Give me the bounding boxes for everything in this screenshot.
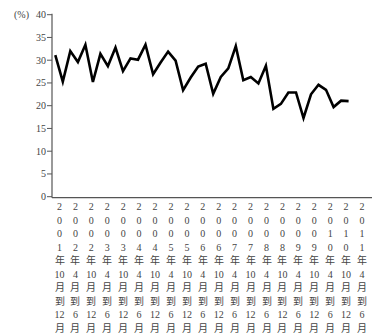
y-tick-label: 10: [36, 146, 46, 157]
data-line: [55, 45, 348, 118]
y-tick-label: 5: [41, 168, 46, 179]
x-tick-label: 2010年10月到12月: [339, 200, 353, 335]
x-tick-label: 2011年4月到6月: [355, 200, 369, 335]
y-tick-label: 30: [36, 55, 46, 66]
x-tick-label: 2001年10月到12月: [53, 200, 67, 335]
x-tick-label: 2007年10月到12月: [244, 200, 258, 335]
y-axis: 0510152025303540(%): [14, 9, 52, 202]
x-tick-label: 2006年10月到12月: [212, 200, 226, 335]
x-tick-label: 2004年10月到12月: [148, 200, 162, 335]
x-tick-label: 2003年10月到12月: [116, 200, 130, 335]
x-tick-label: 2003年4月到6月: [100, 200, 114, 335]
x-tick-label: 2008年4月到6月: [260, 200, 274, 335]
x-tick-label: 2009年4月到6月: [291, 200, 305, 335]
x-tick-label: 2008年10月到12月: [275, 200, 289, 335]
x-tick-label: 2006年4月到6月: [196, 200, 210, 335]
x-tick-label: 2005年4月到6月: [164, 200, 178, 335]
y-tick-label: 25: [36, 77, 46, 88]
x-tick-label: 2007年4月到6月: [228, 200, 242, 335]
x-tick-label: 2005年10月到12月: [180, 200, 194, 335]
y-tick-label: 20: [36, 100, 46, 111]
y-tick-label: 0: [41, 191, 46, 202]
x-tick-label: 2009年10月到12月: [307, 200, 321, 335]
y-tick-label: 15: [36, 123, 46, 134]
x-tick-label: 2004年4月到6月: [132, 200, 146, 335]
y-axis-unit-label: (%): [14, 9, 29, 21]
y-tick-label: 35: [36, 32, 46, 43]
x-tick-label: 2002年4月到6月: [68, 200, 82, 335]
x-tick-label: 2010年4月到6月: [323, 200, 337, 335]
y-tick-label: 40: [36, 9, 46, 20]
x-tick-label: 2002年10月到12月: [84, 200, 98, 335]
